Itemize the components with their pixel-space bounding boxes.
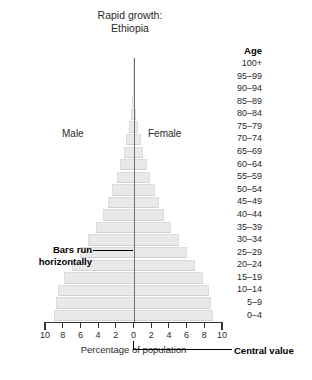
age-label: 55–59: [212, 170, 270, 183]
age-label: 80–84: [212, 107, 270, 120]
age-label: 40–44: [212, 208, 270, 221]
age-label: 45–49: [212, 195, 270, 208]
bar-female: [134, 247, 188, 258]
age-label: 25–29: [212, 246, 270, 259]
x-axis-tick: [133, 322, 134, 328]
page-title: Rapid growth: Ethiopia: [0, 9, 260, 35]
x-axis-tick: [98, 322, 99, 328]
callout-central-value: Central value: [234, 345, 294, 356]
x-axis-tick: [168, 322, 169, 328]
source-note: Based on data from Population Reference …: [311, 301, 312, 380]
bar-male: [103, 209, 134, 220]
bar-female: [134, 147, 144, 158]
callout-central-leader-line: [133, 349, 232, 350]
bar-male: [108, 197, 134, 208]
age-label-list: 100+95–9990–9485–8980–8475–7970–7465–696…: [212, 57, 270, 321]
bar-male: [96, 222, 133, 233]
bar-female: [134, 310, 214, 321]
x-axis-tick: [204, 322, 205, 328]
age-label: 90–94: [212, 82, 270, 95]
age-axis-column: Age 100+95–9990–9485–8980–8475–7970–7465…: [212, 44, 270, 321]
bar-male: [58, 285, 133, 296]
age-label: 10–14: [212, 283, 270, 296]
bar-female: [134, 184, 155, 195]
bar-male: [126, 134, 133, 145]
age-label: 50–54: [212, 183, 270, 196]
bar-male: [117, 172, 134, 183]
age-label: 0–4: [212, 309, 270, 322]
bar-male: [124, 147, 134, 158]
callout-bars-leader-line: [93, 250, 133, 251]
bar-male: [56, 297, 134, 308]
age-label: 30–34: [212, 233, 270, 246]
age-label: 95–99: [212, 70, 270, 83]
bar-female: [134, 197, 160, 208]
callout-bars-line-1: Bars run: [53, 244, 92, 255]
age-label: 5–9: [212, 296, 270, 309]
title-line-2: Ethiopia: [0, 22, 260, 35]
x-axis-tick: [221, 322, 222, 330]
age-label: 85–89: [212, 95, 270, 108]
x-axis-tick: [115, 322, 116, 328]
x-axis-tick-label: 10: [210, 330, 234, 340]
bar-male: [64, 272, 134, 283]
bar-female: [134, 222, 171, 233]
x-axis-tick: [80, 322, 81, 328]
bar-female: [134, 172, 151, 183]
age-label: 15–19: [212, 271, 270, 284]
age-label: 70–74: [212, 132, 270, 145]
age-label: 65–69: [212, 145, 270, 158]
age-label: 60–64: [212, 158, 270, 171]
male-label: Male: [62, 128, 84, 139]
bar-female: [134, 260, 196, 271]
x-axis-tick: [62, 322, 63, 328]
x-axis-tick: [186, 322, 187, 328]
bar-male: [112, 184, 133, 195]
bar-female: [134, 297, 212, 308]
age-label: 100+: [212, 57, 270, 70]
x-axis-tick: [44, 322, 45, 330]
bar-female: [134, 234, 179, 245]
bar-female: [134, 159, 147, 170]
x-axis-tick: [151, 322, 152, 328]
central-axis-line: [134, 58, 135, 322]
callout-bars-run-horizontally: Bars run horizontally: [6, 244, 92, 268]
bar-male: [54, 310, 134, 321]
bar-female: [134, 209, 165, 220]
age-label: 75–79: [212, 120, 270, 133]
age-header: Age: [212, 44, 270, 57]
age-label: 20–24: [212, 258, 270, 271]
bar-female: [134, 285, 209, 296]
bar-male: [88, 234, 133, 245]
title-line-1: Rapid growth:: [0, 9, 260, 22]
bar-male: [120, 159, 133, 170]
callout-bars-line-2: horizontally: [39, 256, 92, 267]
age-label: 35–39: [212, 221, 270, 234]
bar-female: [134, 272, 204, 283]
female-label: Female: [148, 128, 181, 139]
